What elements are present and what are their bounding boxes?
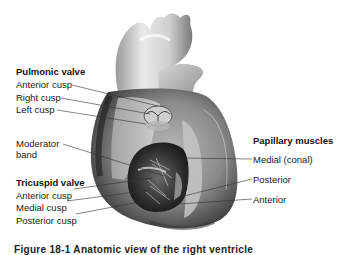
figure-caption: Figure 18-1 Anatomic view of the right v… bbox=[14, 244, 253, 255]
papillary-muscles-title: Papillary muscles bbox=[253, 135, 333, 146]
tricuspid-posterior-cusp-label: Posterior cusp bbox=[16, 215, 77, 226]
papillary-posterior-label: Posterior bbox=[253, 174, 291, 185]
papillary-medial-label: Medial (conal) bbox=[253, 154, 313, 165]
pulmonic-right-cusp-label: Right cusp bbox=[16, 92, 61, 103]
right-ventricle-cavity bbox=[128, 143, 189, 212]
pulmonic-valve-title: Pulmonic valve bbox=[16, 66, 85, 77]
tricuspid-anterior-cusp-label: Anterior cusp bbox=[16, 190, 72, 201]
tricuspid-medial-cusp-label: Medial cusp bbox=[16, 202, 67, 213]
moderator-band-label-line2: band bbox=[16, 149, 37, 160]
moderator-band-label-line1: Moderator bbox=[16, 138, 59, 149]
pulmonic-left-cusp-label: Left cusp bbox=[16, 104, 55, 115]
pulmonic-valve bbox=[144, 106, 172, 131]
papillary-anterior-label: Anterior bbox=[253, 194, 286, 205]
pulmonic-anterior-cusp-label: Anterior cusp bbox=[16, 79, 72, 90]
tricuspid-valve-title: Tricuspid valve bbox=[16, 177, 85, 188]
